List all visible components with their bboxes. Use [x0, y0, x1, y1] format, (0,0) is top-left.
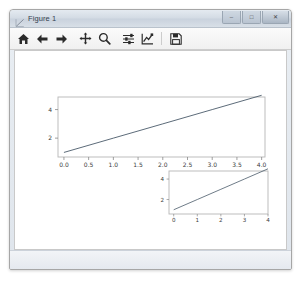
maximize-icon: □ — [250, 14, 254, 20]
back-arrow-icon — [36, 33, 49, 45]
minimize-button[interactable]: – — [222, 11, 241, 24]
main-xtick-label: 2.0 — [158, 161, 168, 168]
matplotlib-figure-icon — [15, 14, 25, 24]
inset-xtick-label: 4 — [266, 217, 270, 223]
inset-axes-yticklabels: 2 4 — [160, 176, 164, 203]
edit-axis-curve-icon — [141, 33, 154, 45]
main-xtick-label: 2.5 — [183, 161, 193, 168]
main-ytick-label: 2 — [48, 134, 52, 141]
pan-button[interactable] — [76, 30, 95, 48]
edit-axis-curve-button[interactable] — [138, 30, 157, 48]
inset-xtick-label: 3 — [243, 217, 247, 223]
window-title: Figure 1 — [28, 14, 56, 23]
forward-arrow-icon — [55, 33, 68, 45]
main-axes-xticklabels: 0.0 0.5 1.0 1.5 2.0 2.5 3.0 3.5 4.0 — [59, 161, 266, 168]
main-xtick-label: 0.5 — [84, 161, 94, 168]
inset-ytick-label: 4 — [160, 176, 164, 182]
main-ytick-label: 4 — [48, 106, 52, 113]
home-button[interactable] — [14, 30, 33, 48]
main-xtick-label: 0.0 — [59, 161, 69, 168]
main-axes: 0.0 0.5 1.0 1.5 2.0 2.5 3.0 3.5 4.0 — [48, 95, 266, 168]
inset-axes-frame — [169, 171, 268, 214]
zoom-button[interactable] — [95, 30, 114, 48]
configure-subplots-sliders-icon — [122, 33, 135, 45]
window-controls: – □ ✕ — [222, 11, 289, 24]
inset-xtick-label: 2 — [219, 217, 223, 223]
main-xtick-label: 1.5 — [133, 161, 143, 168]
toolbar-separator — [161, 32, 162, 45]
close-icon: ✕ — [273, 14, 278, 20]
main-axes-frame — [58, 97, 265, 157]
window-titlebar[interactable]: Figure 1 – □ ✕ — [10, 10, 291, 28]
main-axes-yticklabels: 2 4 — [48, 106, 52, 142]
status-bar — [10, 250, 291, 269]
pan-move-icon — [79, 32, 92, 45]
forward-button[interactable] — [52, 30, 71, 48]
minimize-icon: – — [230, 14, 233, 20]
configure-subplots-button[interactable] — [119, 30, 138, 48]
main-xtick-label: 3.0 — [207, 161, 217, 168]
home-icon — [17, 33, 30, 45]
save-floppy-icon — [170, 33, 182, 45]
close-button[interactable]: ✕ — [262, 11, 289, 24]
figure-window: Figure 1 – □ ✕ — [9, 9, 292, 270]
maximize-button[interactable]: □ — [242, 11, 261, 24]
figure-canvas-area: 0.0 0.5 1.0 1.5 2.0 2.5 3.0 3.5 4.0 — [14, 50, 287, 251]
inset-ytick-label: 2 — [160, 197, 164, 203]
main-xtick-label: 3.5 — [232, 161, 242, 168]
inset-xtick-label: 0 — [172, 217, 176, 223]
navigation-toolbar — [10, 28, 291, 50]
back-button[interactable] — [33, 30, 52, 48]
figure-canvas[interactable]: 0.0 0.5 1.0 1.5 2.0 2.5 3.0 3.5 4.0 — [14, 50, 287, 250]
save-button[interactable] — [166, 30, 185, 48]
inset-axes: 0 1 2 3 4 2 4 — [160, 169, 270, 224]
main-xtick-label: 1.0 — [109, 161, 119, 168]
inset-xtick-label: 1 — [196, 217, 200, 223]
main-xtick-label: 4.0 — [257, 161, 267, 168]
zoom-magnifier-icon — [98, 32, 111, 45]
figure-plot: 0.0 0.5 1.0 1.5 2.0 2.5 3.0 3.5 4.0 — [15, 51, 288, 250]
inset-axes-xticklabels: 0 1 2 3 4 — [172, 217, 270, 223]
